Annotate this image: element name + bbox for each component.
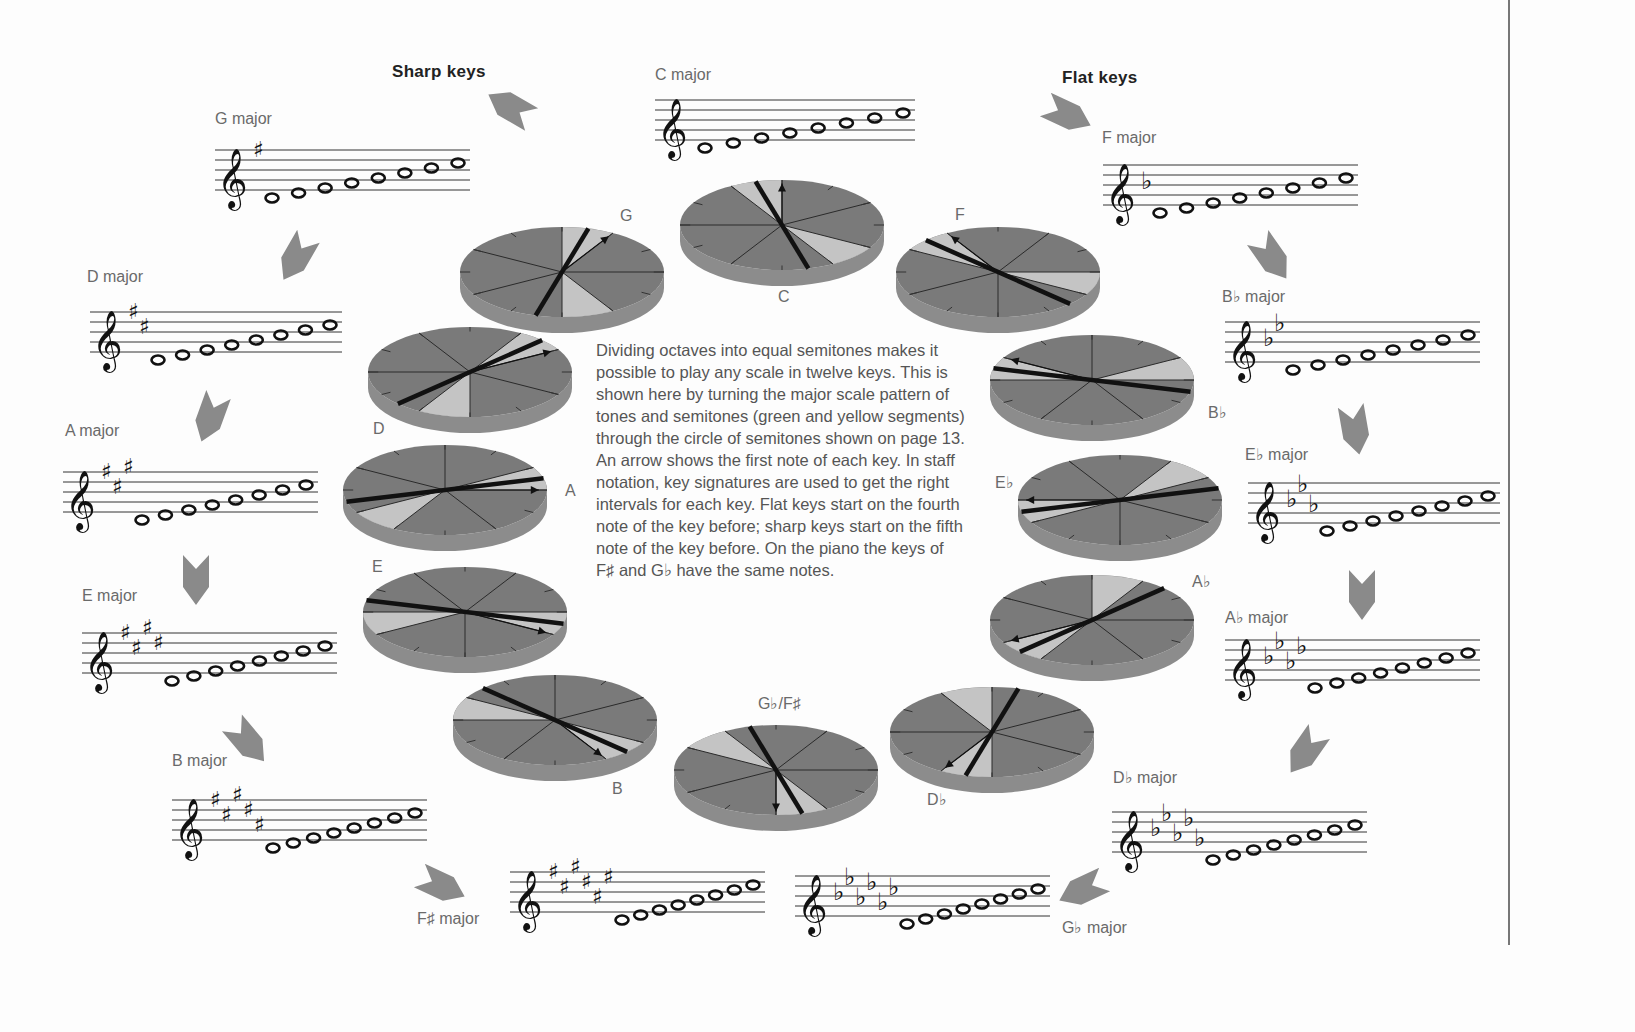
staff-fs: 𝄞♯♯♯♯♯♯	[510, 857, 765, 937]
sharp-icon: ♯	[254, 812, 265, 837]
treble-clef-icon: 𝄞	[1114, 810, 1145, 873]
whole-note-icon	[388, 814, 401, 823]
whole-note-icon	[699, 144, 712, 153]
sharp-icon: ♯	[142, 615, 153, 640]
flat-icon: ♭	[877, 888, 888, 916]
chevron-arrow-icon	[161, 555, 231, 605]
key-label-f: F major	[1102, 129, 1156, 147]
whole-note-icon	[901, 920, 914, 929]
key-disc-c	[660, 160, 904, 306]
whole-note-icon	[276, 486, 289, 495]
whole-note-icon	[653, 906, 666, 915]
staff-ab: 𝄞♭♭♭♭	[1225, 625, 1480, 705]
flat-icon: ♭	[1297, 470, 1308, 498]
chevron-arrow-icon	[475, 82, 545, 132]
staff-g: 𝄞♯	[215, 135, 470, 215]
staff-bb: 𝄞♭♭	[1225, 307, 1480, 387]
whole-note-icon	[812, 124, 825, 133]
whole-note-icon	[690, 896, 703, 905]
whole-note-icon	[1396, 664, 1409, 673]
flat-icon: ♭	[1263, 324, 1274, 352]
sharp-icon: ♯	[603, 864, 614, 889]
disc-label-eb: E♭	[995, 473, 1014, 492]
whole-note-icon	[1013, 890, 1026, 899]
flat-icon: ♭	[1274, 627, 1285, 655]
sharp-icon: ♯	[253, 137, 264, 162]
treble-clef-icon: 𝄞	[65, 470, 96, 533]
key-label-eb: E♭ major	[1245, 445, 1308, 464]
whole-note-icon	[1337, 356, 1350, 365]
whole-note-icon	[319, 184, 332, 193]
flat-icon: ♭	[1296, 632, 1307, 660]
chevron-arrow-icon	[1270, 727, 1340, 777]
flat-icon: ♭	[833, 878, 844, 906]
sharp-icon: ♯	[210, 787, 221, 812]
sharp-icon: ♯	[232, 782, 243, 807]
key-label-fs: F♯ major	[417, 910, 479, 928]
flat-icon: ♭	[888, 873, 899, 901]
whole-note-icon	[1287, 366, 1300, 375]
sharp-icon: ♯	[101, 459, 112, 484]
disc-label-g: G	[620, 207, 632, 225]
disc-label-f: F	[955, 206, 965, 224]
treble-clef-icon: 𝄞	[1227, 320, 1258, 383]
disc-label-db: D♭	[927, 790, 947, 809]
treble-clef-icon: 𝄞	[1250, 481, 1281, 544]
chevron-arrow-icon	[1237, 233, 1307, 283]
whole-note-icon	[755, 134, 768, 143]
whole-note-icon	[868, 114, 881, 123]
whole-note-icon	[297, 647, 310, 656]
whole-note-icon	[201, 346, 214, 355]
key-label-b: B major	[172, 752, 227, 770]
treble-clef-icon: 𝄞	[84, 631, 115, 694]
whole-note-icon	[266, 194, 279, 203]
whole-note-icon	[616, 916, 629, 925]
whole-note-icon	[1321, 527, 1334, 536]
whole-note-icon	[425, 164, 438, 173]
whole-note-icon	[229, 496, 242, 505]
disc-label-a: A	[565, 482, 576, 500]
whole-note-icon	[152, 356, 165, 365]
treble-clef-icon: 𝄞	[1105, 163, 1136, 226]
sharp-icon: ♯	[559, 874, 570, 899]
flat-icon: ♭	[1150, 814, 1161, 842]
treble-clef-icon: 𝄞	[217, 148, 248, 211]
sharp-keys-heading: Sharp keys	[392, 62, 486, 82]
sharp-icon: ♯	[123, 454, 134, 479]
whole-note-icon	[1154, 209, 1167, 218]
chevron-arrow-icon	[261, 233, 331, 283]
key-label-bb: B♭ major	[1222, 287, 1285, 306]
flat-icon: ♭	[1308, 490, 1319, 518]
staff-a: 𝄞♯♯♯	[63, 457, 318, 537]
sharp-icon: ♯	[243, 797, 254, 822]
whole-note-icon	[209, 667, 222, 676]
whole-note-icon	[1328, 826, 1341, 835]
whole-note-icon	[1387, 346, 1400, 355]
treble-clef-icon: 𝄞	[797, 874, 828, 937]
staff-e: 𝄞♯♯♯♯	[82, 618, 337, 698]
disc-label-b: B	[612, 780, 623, 798]
flat-icon: ♭	[1285, 647, 1296, 675]
whole-note-icon	[166, 677, 179, 686]
whole-note-icon	[1207, 856, 1220, 865]
page: Sharp keys Flat keys Dividing octaves in…	[0, 0, 1635, 1032]
staff-d: 𝄞♯♯	[90, 297, 342, 377]
whole-note-icon	[1260, 189, 1273, 198]
whole-note-icon	[1459, 497, 1472, 506]
whole-note-icon	[250, 336, 263, 345]
whole-note-icon	[1352, 674, 1365, 683]
flat-keys-heading: Flat keys	[1062, 68, 1137, 88]
staff-db: 𝄞♭♭♭♭♭	[1112, 797, 1367, 877]
sharp-icon: ♯	[131, 635, 142, 660]
page-divider-rule	[1508, 0, 1510, 945]
whole-note-icon	[182, 506, 195, 515]
explanation-text: Dividing octaves into equal semitones ma…	[596, 339, 966, 581]
key-label-a: A major	[65, 422, 119, 440]
whole-note-icon	[1437, 336, 1450, 345]
key-label-e: E major	[82, 587, 137, 605]
whole-note-icon	[1288, 836, 1301, 845]
sharp-icon: ♯	[153, 630, 164, 655]
whole-note-icon	[975, 900, 988, 909]
disc-label-c: C	[778, 288, 790, 306]
staff-c: 𝄞	[655, 85, 915, 165]
